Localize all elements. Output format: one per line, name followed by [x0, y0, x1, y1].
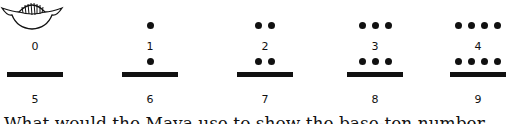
dot-icon: [455, 22, 462, 29]
numeral-5: 5: [0, 55, 75, 110]
numeral-6: 6: [110, 55, 190, 110]
shell-icon: [0, 0, 65, 32]
numeral-label: 1: [110, 40, 190, 53]
numeral-label: 6: [110, 93, 190, 106]
dot-icon: [372, 22, 379, 29]
dot-icon: [494, 22, 501, 29]
numeral-0: 0: [0, 0, 75, 55]
bar-icon: [450, 72, 506, 77]
numeral-label: 7: [225, 93, 305, 106]
dot-icon: [359, 58, 366, 65]
numeral-label: 9: [438, 93, 513, 106]
numeral-label: 3: [335, 40, 415, 53]
dot-icon: [481, 58, 488, 65]
numeral-2: 2: [225, 0, 305, 55]
numeral-label: 2: [225, 40, 305, 53]
dots-group: [110, 22, 190, 29]
dot-icon: [481, 22, 488, 29]
dot-icon: [372, 58, 379, 65]
numeral-8: 8: [335, 55, 415, 110]
numeral-9: 9: [438, 55, 513, 110]
dot-icon: [147, 58, 154, 65]
dot-icon: [359, 22, 366, 29]
dot-icon: [255, 22, 262, 29]
dots-group: [110, 58, 190, 65]
numeral-1: 1: [110, 0, 190, 55]
dot-icon: [255, 58, 262, 65]
dots-group: [438, 58, 513, 65]
numeral-4: 4: [438, 0, 513, 55]
dots-group: [225, 58, 305, 65]
dots-group: [335, 22, 415, 29]
dots-group: [225, 22, 305, 29]
dot-icon: [494, 58, 501, 65]
dot-icon: [385, 22, 392, 29]
dots-group: [335, 58, 415, 65]
numeral-3: 3: [335, 0, 415, 55]
dot-icon: [268, 58, 275, 65]
numeral-label: 8: [335, 93, 415, 106]
question-text: What would the Maya use to show the base…: [4, 113, 485, 124]
bar-icon: [122, 72, 178, 77]
dot-icon: [468, 58, 475, 65]
dot-icon: [385, 58, 392, 65]
numeral-label: 5: [0, 93, 75, 106]
dot-icon: [468, 22, 475, 29]
numeral-label: 4: [438, 40, 513, 53]
bar-icon: [237, 72, 293, 77]
dot-icon: [455, 58, 462, 65]
dot-icon: [268, 22, 275, 29]
bar-icon: [347, 72, 403, 77]
bar-icon: [7, 72, 63, 77]
numeral-label: 0: [0, 40, 75, 53]
dots-group: [438, 22, 513, 29]
numeral-7: 7: [225, 55, 305, 110]
dot-icon: [147, 22, 154, 29]
